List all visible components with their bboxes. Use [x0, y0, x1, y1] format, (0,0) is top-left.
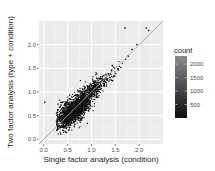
legend-break-label: 500	[190, 102, 201, 108]
x-tick-label: 0.0	[40, 147, 49, 153]
outlier-point	[124, 27, 125, 28]
y-axis: 0.00.51.01.52.0	[28, 42, 39, 143]
outlier-point	[57, 125, 58, 126]
y-axis-title: Two factor analysis (type + condition)	[6, 16, 15, 148]
legend-break-label: 1500	[190, 75, 204, 81]
outlier-point	[44, 102, 45, 103]
y-tick-label: 0.5	[28, 113, 37, 119]
y-tick-label: 2.0	[28, 42, 37, 48]
y-tick-label: 1.5	[28, 65, 37, 71]
legend-title: count	[174, 46, 193, 55]
outlier-point	[146, 27, 147, 28]
x-axis-title: Single factor analysis (condition)	[43, 155, 159, 164]
legend-colorbar	[175, 56, 187, 118]
legend-break-label: 2000	[190, 61, 204, 67]
y-tick-label: 1.0	[28, 89, 37, 95]
y-tick-label: 0.0	[28, 136, 37, 142]
legend: count 500100015002000	[174, 46, 204, 118]
scatter-chart: 0.00.51.01.52.0 0.00.51.01.52.0 Single f…	[0, 0, 215, 171]
outlier-point	[136, 44, 137, 45]
x-tick-label: 1.0	[87, 147, 96, 153]
outlier-point	[148, 30, 149, 31]
x-tick-label: 1.5	[111, 147, 120, 153]
legend-break-label: 1000	[190, 88, 204, 94]
x-tick-label: 0.5	[63, 147, 72, 153]
outlier-point	[131, 49, 132, 50]
x-tick-label: 2.0	[135, 147, 144, 153]
x-axis: 0.00.51.01.52.0	[40, 144, 144, 153]
